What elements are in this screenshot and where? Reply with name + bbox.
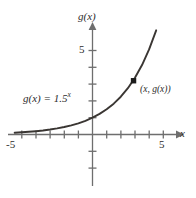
point-coordinate-label: (x, g(x))	[140, 85, 171, 95]
equation-exponent-text: x	[67, 90, 70, 99]
exponential-function-graph: g(x) x 5 -5 5 g(x) = 1.5x (x, g(x))	[0, 0, 196, 198]
equation-label: g(x) = 1.5x	[23, 93, 71, 104]
x-tick-label-5: 5	[159, 139, 165, 150]
x-axis-label: x	[180, 128, 185, 139]
point-marker	[131, 78, 136, 83]
y-axis-label: g(x)	[78, 11, 96, 22]
y-axis-arrow-icon	[89, 22, 97, 30]
x-tick-label-minus-5: -5	[6, 139, 15, 150]
y-tick-label-5: 5	[79, 44, 85, 55]
equation-base-text: g(x) = 1.5	[23, 92, 67, 104]
